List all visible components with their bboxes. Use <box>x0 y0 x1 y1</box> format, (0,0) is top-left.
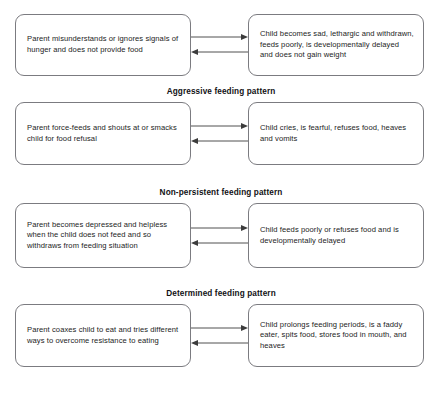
parent-behaviour-box: Parent becomes depressed and helpless wh… <box>15 203 191 268</box>
child-response-box: Child feeds poorly or refuses food and i… <box>248 203 424 268</box>
parent-behaviour-text: Parent misunderstands or ignores signals… <box>27 34 181 55</box>
parent-behaviour-text: Parent force-feeds and shouts at or smac… <box>27 123 181 144</box>
reverse-arrow-head-icon <box>191 340 198 346</box>
forward-arrow-head-icon <box>241 34 248 40</box>
reverse-arrow-head-icon <box>191 138 198 144</box>
parent-behaviour-box: Parent misunderstands or ignores signals… <box>15 14 191 76</box>
section-heading-aggressive: Aggressive feeding pattern <box>0 82 442 102</box>
pattern-row: Parent coaxes child to eat and tries dif… <box>0 304 442 374</box>
child-response-box: Child becomes sad, lethargic and withdra… <box>248 14 424 76</box>
feeding-patterns-diagram: Parent misunderstands or ignores signals… <box>0 0 442 402</box>
parent-behaviour-box: Parent coaxes child to eat and tries dif… <box>15 304 191 367</box>
bidirectional-arrow-pair <box>191 304 248 367</box>
parent-behaviour-text: Parent coaxes child to eat and tries dif… <box>27 325 181 346</box>
section-heading-non-persistent: Non-persistent feeding pattern <box>0 183 442 203</box>
parent-behaviour-box: Parent force-feeds and shouts at or smac… <box>15 102 191 165</box>
section-determined: Parent coaxes child to eat and tries dif… <box>0 304 442 374</box>
section-non-persistent: Parent becomes depressed and helpless wh… <box>0 203 442 275</box>
bidirectional-arrow-pair <box>191 102 248 165</box>
child-response-box: Child prolongs feeding periods, is a fad… <box>248 304 424 367</box>
forward-arrow-head-icon <box>241 123 248 129</box>
parent-behaviour-text: Parent becomes depressed and helpless wh… <box>27 220 181 252</box>
pattern-row: Parent force-feeds and shouts at or smac… <box>0 102 442 172</box>
pattern-row: Parent misunderstands or ignores signals… <box>0 0 442 70</box>
bidirectional-arrow-pair <box>191 14 248 76</box>
child-response-box: Child cries, is fearful, refuses food, h… <box>248 102 424 165</box>
forward-arrow-head-icon <box>241 325 248 331</box>
pattern-row: Parent becomes depressed and helpless wh… <box>0 203 442 275</box>
child-response-text: Child cries, is fearful, refuses food, h… <box>260 123 414 144</box>
child-response-text: Child feeds poorly or refuses food and i… <box>260 225 414 246</box>
section-apathetic: Parent misunderstands or ignores signals… <box>0 0 442 70</box>
forward-arrow-head-icon <box>241 225 248 231</box>
section-aggressive: Parent force-feeds and shouts at or smac… <box>0 102 442 172</box>
section-heading-determined: Determined feeding pattern <box>0 284 442 304</box>
child-response-text: Child prolongs feeding periods, is a fad… <box>260 320 414 352</box>
bidirectional-arrow-pair <box>191 203 248 268</box>
child-response-text: Child becomes sad, lethargic and withdra… <box>260 29 414 61</box>
reverse-arrow-head-icon <box>191 240 198 246</box>
reverse-arrow-head-icon <box>191 49 198 55</box>
